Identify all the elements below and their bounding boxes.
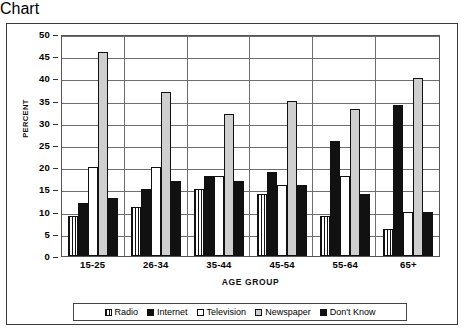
bar-dontknow-55-64 — [360, 194, 370, 256]
y-tick-mark-35 — [53, 102, 58, 103]
y-tick-label-45: 45 — [39, 51, 50, 62]
y-tick-mark-10 — [53, 213, 58, 214]
y-tick-mark-25 — [53, 146, 58, 147]
bar-radio-55-64 — [320, 216, 330, 256]
y-tick-label-25: 25 — [39, 140, 50, 151]
bar-radio-15-25 — [68, 216, 78, 256]
y-tick-label-5: 5 — [45, 228, 50, 239]
y-tick-label-15: 15 — [39, 184, 50, 195]
legend-item-newspaper[interactable]: Newspaper — [255, 307, 311, 317]
y-tick-label-20: 20 — [39, 162, 50, 173]
x-tick-label-55-64: 55-64 — [314, 259, 377, 275]
bar-television-55-64 — [340, 176, 350, 256]
y-tick-mark-45 — [53, 57, 58, 58]
x-axis-tick-labels: 15-2526-3435-4445-5455-6465+ — [61, 259, 440, 275]
bar-dontknow-65+ — [423, 212, 433, 256]
bar-radio-26-34 — [131, 207, 141, 256]
bar-newspaper-26-34 — [161, 92, 171, 256]
y-tick-mark-40 — [53, 79, 58, 80]
bar-newspaper-35-44 — [224, 114, 234, 256]
bar-internet-26-34 — [141, 189, 151, 256]
x-tick-label-26-34: 26-34 — [124, 259, 187, 275]
legend-swatch-newspaper — [255, 309, 262, 316]
bar-internet-55-64 — [330, 141, 340, 256]
bar-newspaper-45-54 — [287, 101, 297, 256]
bar-newspaper-65+ — [413, 78, 423, 256]
bar-television-65+ — [403, 212, 413, 256]
bar-internet-35-44 — [204, 176, 214, 256]
legend-label-newspaper: Newspaper — [265, 307, 311, 317]
legend-swatch-television — [197, 309, 204, 316]
legend-item-radio[interactable]: Radio — [105, 307, 139, 317]
bar-group-15-25 — [62, 36, 125, 256]
y-tick-label-0: 0 — [45, 251, 50, 262]
legend-label-radio: Radio — [115, 307, 139, 317]
bar-group-55-64 — [313, 36, 376, 256]
bar-newspaper-55-64 — [350, 109, 360, 256]
y-tick-mark-15 — [53, 190, 58, 191]
legend-swatch-radio — [105, 309, 112, 316]
bar-dontknow-15-25 — [108, 198, 118, 256]
bar-newspaper-15-25 — [98, 52, 108, 256]
bar-television-35-44 — [214, 176, 224, 256]
y-tick-mark-0 — [53, 257, 58, 258]
bar-television-45-54 — [277, 185, 287, 256]
bar-radio-65+ — [383, 229, 393, 256]
plot-area — [61, 35, 440, 257]
bar-television-26-34 — [151, 167, 161, 256]
chart-legend: RadioInternetTelevisionNewspaperDon't Kn… — [73, 303, 407, 321]
bar-groups — [62, 36, 439, 256]
bar-internet-15-25 — [78, 203, 88, 256]
bar-radio-35-44 — [194, 189, 204, 256]
x-tick-label-45-54: 45-54 — [251, 259, 314, 275]
bar-group-65+ — [376, 36, 439, 256]
bar-radio-45-54 — [257, 194, 267, 256]
legend-item-internet[interactable]: Internet — [147, 307, 188, 317]
bar-dontknow-35-44 — [234, 181, 244, 256]
bar-dontknow-26-34 — [171, 181, 181, 256]
y-tick-label-50: 50 — [39, 29, 50, 40]
bar-group-45-54 — [250, 36, 313, 256]
legend-swatch-internet — [147, 309, 154, 316]
legend-swatch-dontknow — [320, 309, 327, 316]
y-tick-label-10: 10 — [39, 206, 50, 217]
x-tick-label-35-44: 35-44 — [187, 259, 250, 275]
y-tick-mark-20 — [53, 168, 58, 169]
x-axis-title: AGE GROUP — [61, 277, 440, 287]
x-tick-label-15-25: 15-25 — [61, 259, 124, 275]
x-tick-label-65+: 65+ — [377, 259, 440, 275]
bar-internet-45-54 — [267, 172, 277, 256]
legend-item-dontknow[interactable]: Don't Know — [320, 307, 376, 317]
y-axis-tick-labels: 05101520253035404550 — [0, 35, 58, 257]
y-tick-label-40: 40 — [39, 73, 50, 84]
y-tick-mark-50 — [53, 35, 58, 36]
y-tick-mark-5 — [53, 235, 58, 236]
legend-item-television[interactable]: Television — [197, 307, 247, 317]
legend-label-television: Television — [207, 307, 247, 317]
y-tick-label-35: 35 — [39, 95, 50, 106]
y-tick-label-30: 30 — [39, 117, 50, 128]
legend-label-dontknow: Don't Know — [330, 307, 376, 317]
bar-dontknow-45-54 — [297, 185, 307, 256]
chart-figure: PERCENT 05101520253035404550 15-2526-343… — [0, 18, 465, 329]
bar-television-15-25 — [88, 167, 98, 256]
legend-label-internet: Internet — [157, 307, 188, 317]
bar-group-35-44 — [188, 36, 251, 256]
bar-group-26-34 — [125, 36, 188, 256]
bar-internet-65+ — [393, 105, 403, 256]
y-tick-mark-30 — [53, 124, 58, 125]
